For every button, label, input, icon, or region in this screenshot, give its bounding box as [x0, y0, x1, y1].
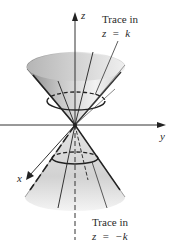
annotation-top-line1: Trace in — [102, 14, 138, 25]
x-axis-label: x — [17, 173, 22, 184]
y-axis-arrowhead-icon — [157, 122, 166, 128]
annotation-top-line2: z = k — [102, 28, 130, 39]
annotation-bottom-line2: z = −k — [92, 231, 128, 242]
y-axis-label: y — [160, 131, 165, 142]
z-axis-label: z — [81, 10, 85, 21]
annotation-bottom-line1: Trace in — [92, 217, 128, 228]
upper-cone — [27, 52, 125, 125]
z-axis-arrowhead-icon — [72, 12, 78, 21]
double-cone-diagram — [0, 0, 173, 250]
